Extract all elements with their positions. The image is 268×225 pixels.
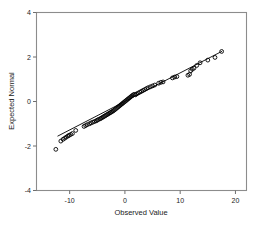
qq-plot-figure: 420-2-4 -1001020 Observed Value Expected…: [0, 0, 268, 225]
x-tick-label: 0: [123, 197, 127, 204]
y-tick-label: -4: [25, 187, 31, 194]
y-tick-label: 0: [27, 98, 31, 105]
x-tick-label: 10: [176, 197, 184, 204]
y-tick-label: 2: [27, 54, 31, 61]
x-tick-label: -10: [65, 197, 75, 204]
y-tick-label: 4: [27, 9, 31, 16]
x-axis-title: Observed Value: [114, 208, 167, 217]
x-tick-label: 20: [232, 197, 240, 204]
y-tick-label: -2: [25, 143, 31, 150]
y-axis-title: Expected Normal: [7, 72, 16, 130]
plot-frame: [37, 13, 247, 191]
